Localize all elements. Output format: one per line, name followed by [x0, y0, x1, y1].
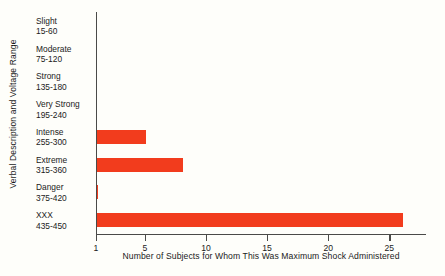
category-label: Slight15-60: [36, 16, 94, 37]
x-axis-title: Number of Subjects for Whom This Was Max…: [96, 251, 426, 261]
bar: [97, 185, 98, 199]
x-tick-mark: [389, 235, 390, 241]
category-label-column: Slight15-60Moderate75-120Strong135-180Ve…: [36, 24, 94, 234]
category-name: Moderate: [36, 44, 94, 55]
category-name: Extreme: [36, 155, 94, 166]
category-label: Moderate75-120: [36, 44, 94, 65]
category-label: Intense255-300: [36, 127, 94, 148]
category-voltage-range: 315-360: [36, 165, 94, 176]
plot-area: 1510152025: [96, 12, 426, 234]
category-voltage-range: 375-420: [36, 193, 94, 204]
y-axis-title: Verbal Description and Voltage Range: [0, 0, 26, 252]
category-label: Extreme315-360: [36, 155, 94, 176]
category-label: Danger375-420: [36, 182, 94, 203]
category-name: Strong: [36, 71, 94, 82]
x-tick-mark: [206, 235, 207, 241]
bar-chart: Verbal Description and Voltage Range Sli…: [0, 0, 445, 276]
bar: [97, 130, 146, 144]
category-name: Intense: [36, 127, 94, 138]
y-axis-line: [96, 12, 97, 234]
category-voltage-range: 255-300: [36, 137, 94, 148]
bar: [97, 213, 403, 227]
category-voltage-range: 135-180: [36, 82, 94, 93]
category-voltage-range: 195-240: [36, 110, 94, 121]
category-voltage-range: 15-60: [36, 26, 94, 37]
x-tick-mark: [267, 235, 268, 241]
category-label: XXX435-450: [36, 210, 94, 231]
category-label: Strong135-180: [36, 71, 94, 92]
category-label: Very Strong195-240: [36, 99, 94, 120]
category-name: Danger: [36, 182, 94, 193]
category-voltage-range: 435-450: [36, 221, 94, 232]
category-name: XXX: [36, 210, 94, 221]
x-tick-mark: [145, 235, 146, 241]
bar: [97, 158, 183, 172]
category-name: Slight: [36, 16, 94, 27]
category-voltage-range: 75-120: [36, 54, 94, 65]
category-name: Very Strong: [36, 99, 94, 110]
x-tick-mark: [96, 235, 97, 241]
x-tick-mark: [328, 235, 329, 241]
